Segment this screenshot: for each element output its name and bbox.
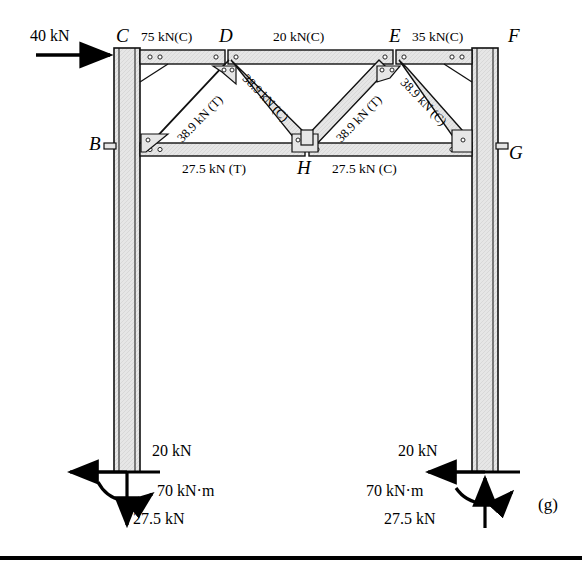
- member-force-hg: 27.5 kN (C): [332, 162, 397, 176]
- node-label-b: B: [89, 134, 101, 153]
- right-column: [472, 48, 498, 472]
- node-label-f: F: [508, 26, 520, 45]
- left-reaction-horizontal-label: 20 kN: [152, 443, 192, 459]
- right-support-reactions: [428, 472, 520, 528]
- node-label-g: G: [509, 143, 523, 162]
- figure-canvas: 40 kN C D E F B G H 75 kN(C) 20 kN(C) 35…: [0, 0, 582, 573]
- applied-load-label: 40 kN: [30, 28, 70, 44]
- left-reaction-moment-label: 70 kN·m: [157, 483, 214, 499]
- right-reaction-horizontal-label: 20 kN: [398, 443, 438, 459]
- left-column: [114, 48, 140, 472]
- structure-drawing: [0, 0, 582, 573]
- member-force-ef: 35 kN(C): [412, 30, 463, 44]
- member-force-de: 20 kN(C): [273, 30, 324, 44]
- member-force-cd: 75 kN(C): [141, 30, 192, 44]
- right-reaction-vertical-label: 27.5 kN: [384, 511, 436, 527]
- node-label-d: D: [219, 26, 233, 45]
- left-reaction-vertical-label: 27.5 kN: [133, 511, 185, 527]
- node-label-h: H: [297, 158, 311, 177]
- right-reaction-moment-label: 70 kN·m: [366, 483, 423, 499]
- member-force-bh: 27.5 kN (T): [182, 162, 246, 176]
- corner-haunches: [140, 64, 472, 82]
- figure-caption: (g): [538, 496, 558, 513]
- post-at-h: [301, 130, 313, 145]
- node-label-e: E: [389, 26, 401, 45]
- node-label-c: C: [116, 26, 129, 45]
- top-chord: [140, 50, 472, 64]
- bottom-divider: [0, 556, 582, 560]
